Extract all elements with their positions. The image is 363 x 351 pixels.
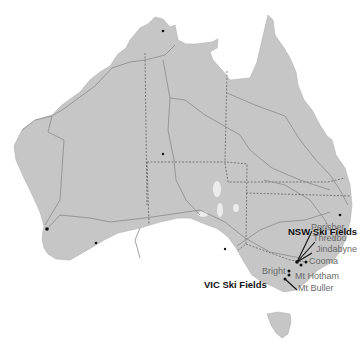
- place-jindabyne: Jindabyne: [316, 244, 357, 254]
- australia-map: [0, 0, 363, 351]
- place-cooma: Cooma: [309, 256, 338, 266]
- australia-mainland: [14, 15, 352, 292]
- place-bright: Bright: [262, 266, 286, 276]
- place-mt-hotham: Mt Hotham: [295, 271, 339, 281]
- place-mt-buller: Mt Buller: [298, 283, 334, 293]
- place-thredbo: Thredbo: [313, 233, 347, 243]
- vic-ski-fields-label: VIC Ski Fields: [204, 280, 267, 290]
- place-perisher: Perisher: [311, 222, 345, 232]
- tasmania: [267, 312, 291, 338]
